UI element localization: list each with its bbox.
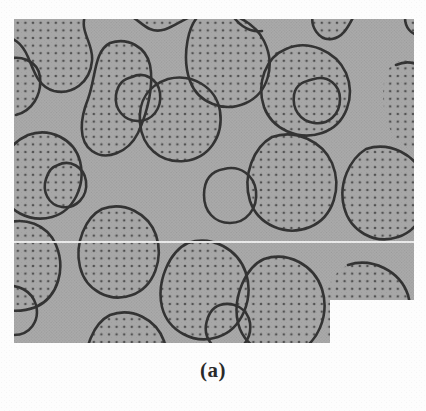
figure-root: (a) xyxy=(0,0,426,411)
figure-caption: (a) xyxy=(0,358,426,383)
micrograph-panel xyxy=(14,19,414,343)
scan-shading xyxy=(14,19,414,343)
micrograph-field xyxy=(14,19,414,343)
